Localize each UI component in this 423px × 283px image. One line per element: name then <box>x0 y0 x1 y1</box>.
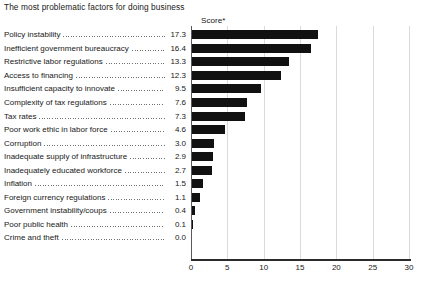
leader-dots <box>63 31 165 39</box>
bar[interactable] <box>192 152 213 161</box>
bar-slot <box>192 109 411 123</box>
chart-row: Inflation1.5 <box>0 177 190 191</box>
category-label-list: Policy instability17.3Inefficient govern… <box>0 28 190 245</box>
value-label: 7.6 <box>167 98 190 107</box>
bar[interactable] <box>192 112 245 121</box>
value-label: 0.4 <box>167 206 190 215</box>
x-tick-label: 0 <box>189 263 193 273</box>
score-column-header: Score* <box>201 15 225 26</box>
leader-dots <box>71 220 165 228</box>
bar-slot <box>192 55 411 69</box>
bar[interactable] <box>192 44 311 53</box>
bar-slot <box>192 82 411 96</box>
x-tick-label: 5 <box>225 263 229 273</box>
category-label: Crime and theft <box>0 233 59 242</box>
value-label: 3.0 <box>167 139 190 148</box>
leader-dots <box>130 153 165 161</box>
value-label: 2.7 <box>167 166 190 175</box>
category-label: Tax rates <box>0 112 36 121</box>
value-label: 7.3 <box>167 112 190 121</box>
x-tick-label: 15 <box>296 263 305 273</box>
chart-row: Inadequate supply of infrastructure2.9 <box>0 150 190 164</box>
bar[interactable] <box>192 166 212 175</box>
bar-slot <box>192 191 411 205</box>
category-label: Inflation <box>0 179 32 188</box>
leader-dots <box>111 126 165 134</box>
category-label: Access to financing <box>0 71 73 80</box>
chart-row: Foreign currency regulations1.1 <box>0 191 190 205</box>
bar-slot <box>192 218 411 232</box>
bars-layer <box>192 28 411 245</box>
value-label: 16.4 <box>167 44 190 53</box>
chart-container: The most problematic factors for doing b… <box>0 0 423 283</box>
chart-row: Government instability/coups0.4 <box>0 204 190 218</box>
bar-slot <box>192 204 411 218</box>
category-label: Inefficient government bureaucracy <box>0 44 129 53</box>
bar[interactable] <box>192 193 200 202</box>
bar-slot <box>192 42 411 56</box>
chart-title: The most problematic factors for doing b… <box>4 2 185 13</box>
chart-row: Poor work ethic in labor force4.6 <box>0 123 190 137</box>
bar[interactable] <box>192 84 261 93</box>
bar[interactable] <box>192 179 203 188</box>
leader-dots <box>132 44 165 52</box>
x-tick-label: 25 <box>368 263 377 273</box>
bar-slot <box>192 69 411 83</box>
value-label: 13.3 <box>167 57 190 66</box>
chart-row: Restrictive labor regulations13.3 <box>0 55 190 69</box>
bar[interactable] <box>192 71 281 80</box>
chart-row: Access to financing12.3 <box>0 69 190 83</box>
bar-slot <box>192 150 411 164</box>
category-label: Corruption <box>0 139 41 148</box>
value-label: 1.5 <box>167 179 190 188</box>
bar-slot <box>192 136 411 150</box>
value-label: 1.1 <box>167 193 190 202</box>
category-label: Insufficient capacity to innovate <box>0 84 115 93</box>
value-label: 4.6 <box>167 125 190 134</box>
leader-dots <box>106 58 165 66</box>
category-label: Restrictive labor regulations <box>0 57 103 66</box>
bar-slot <box>192 231 411 245</box>
category-label: Policy instability <box>0 30 60 39</box>
bar[interactable] <box>192 98 247 107</box>
chart-row: Crime and theft0.0 <box>0 231 190 245</box>
category-label: Foreign currency regulations <box>0 193 105 202</box>
x-tick-label: 10 <box>259 263 268 273</box>
bar[interactable] <box>192 57 289 66</box>
value-label: 17.3 <box>167 30 190 39</box>
category-label: Poor public health <box>0 220 68 229</box>
x-axis-line <box>191 259 411 261</box>
leader-dots <box>62 234 165 242</box>
chart-row: Policy instability17.3 <box>0 28 190 42</box>
bar-slot <box>192 177 411 191</box>
chart-row: Inefficient government bureaucracy16.4 <box>0 42 190 56</box>
x-axis-tick-labels: 051015202530 <box>191 263 411 277</box>
category-label: Complexity of tax regulations <box>0 98 107 107</box>
value-label: 0.1 <box>167 220 190 229</box>
bar-slot <box>192 123 411 137</box>
chart-row: Tax rates7.3 <box>0 109 190 123</box>
chart-row: Complexity of tax regulations7.6 <box>0 96 190 110</box>
leader-dots <box>125 166 165 174</box>
category-label: Inadequate supply of infrastructure <box>0 152 127 161</box>
bar[interactable] <box>192 125 225 134</box>
leader-dots <box>35 180 165 188</box>
value-label: 0.0 <box>167 233 190 242</box>
value-label: 2.9 <box>167 152 190 161</box>
chart-row: Inadequately educated workforce2.7 <box>0 163 190 177</box>
leader-dots <box>110 207 165 215</box>
value-label: 9.5 <box>167 84 190 93</box>
bar[interactable] <box>192 139 214 148</box>
plot-area <box>191 26 411 261</box>
leader-dots <box>76 71 165 79</box>
bar-slot <box>192 28 411 42</box>
chart-row: Poor public health0.1 <box>0 218 190 232</box>
bar[interactable] <box>192 220 193 229</box>
chart-row: Corruption3.0 <box>0 136 190 150</box>
leader-dots <box>108 193 165 201</box>
bar[interactable] <box>192 30 318 39</box>
leader-dots <box>110 99 165 107</box>
bar-slot <box>192 96 411 110</box>
x-tick-label: 30 <box>405 263 414 273</box>
bar[interactable] <box>192 206 195 215</box>
